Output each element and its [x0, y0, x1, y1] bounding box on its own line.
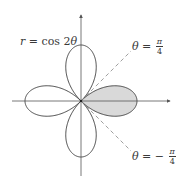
fraction-denominator: 4	[156, 47, 163, 56]
equals-text: =	[139, 40, 155, 53]
equation-text: = cos 2	[25, 35, 70, 48]
pi-over-4-fraction: π4	[156, 37, 163, 56]
origin-point	[80, 100, 83, 103]
lower-line-label: θ = − π4	[132, 147, 176, 166]
fraction-denominator: 4	[169, 157, 176, 166]
curve-equation-label: r = cos 2θ	[20, 35, 77, 48]
equals-minus-text: = −	[139, 150, 168, 163]
pi-over-4-fraction: π4	[169, 147, 176, 166]
fraction-numerator: π	[169, 147, 176, 157]
theta-symbol: θ	[132, 40, 139, 53]
theta-symbol: θ	[132, 150, 139, 163]
upper-line-label: θ = π4	[132, 37, 163, 56]
fraction-numerator: π	[156, 37, 163, 47]
theta-symbol: θ	[70, 35, 77, 48]
